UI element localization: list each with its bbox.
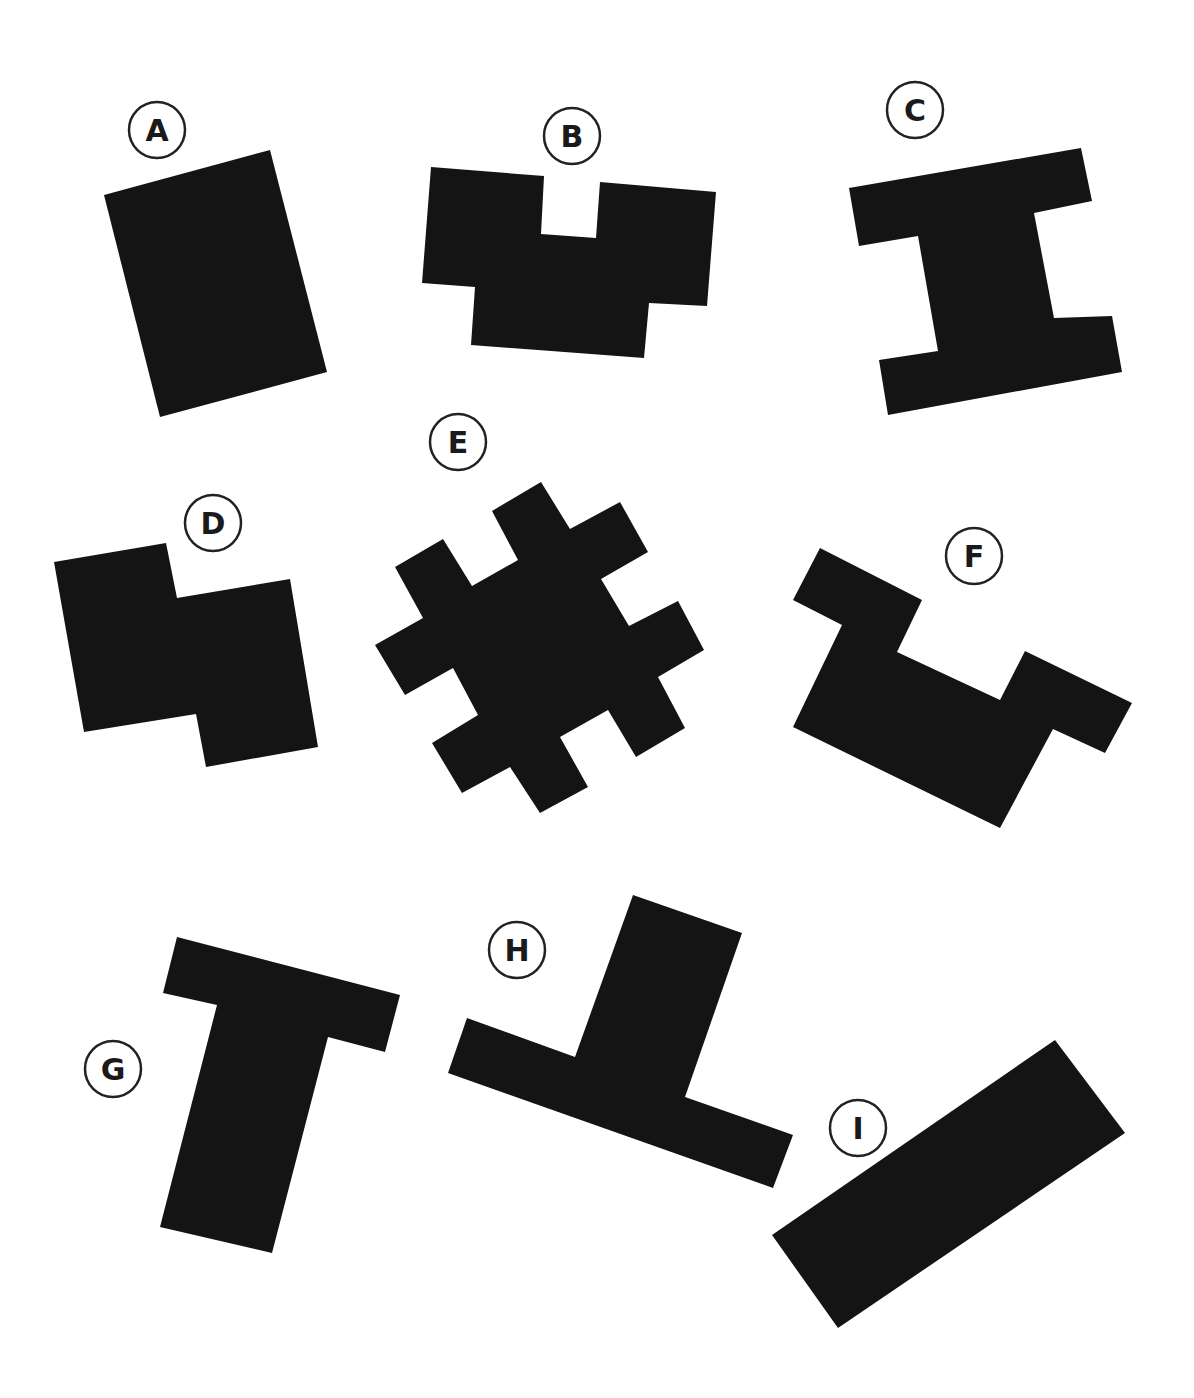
label-f: F xyxy=(946,528,1002,584)
shape-b-polygon xyxy=(422,167,716,358)
label-c: C xyxy=(887,82,943,138)
shape-b: B xyxy=(422,108,716,358)
shape-g: G xyxy=(85,937,400,1253)
label-letter: A xyxy=(145,113,169,148)
label-letter: D xyxy=(201,506,226,541)
label-letter: C xyxy=(904,93,926,128)
label-letter: F xyxy=(964,539,985,574)
label-letter: E xyxy=(448,425,469,460)
shape-c-polygon xyxy=(849,148,1122,415)
label-letter: H xyxy=(504,933,529,968)
label-b: B xyxy=(544,108,600,164)
shape-i: I xyxy=(772,1040,1125,1328)
label-letter: I xyxy=(852,1111,863,1146)
shape-g-polygon xyxy=(160,937,400,1253)
label-a: A xyxy=(129,102,185,158)
label-e: E xyxy=(430,414,486,470)
label-d: D xyxy=(185,495,241,551)
shape-a: A xyxy=(104,102,327,417)
label-letter: G xyxy=(101,1052,126,1087)
shape-e-polygon xyxy=(375,482,704,813)
label-g: G xyxy=(85,1041,141,1097)
label-h: H xyxy=(489,922,545,978)
shape-a-polygon xyxy=(104,150,327,417)
shape-i-polygon xyxy=(772,1040,1125,1328)
shapes-figure: ABCDEFGHI xyxy=(0,0,1194,1398)
shape-d-polygon xyxy=(54,543,318,767)
label-i: I xyxy=(830,1100,886,1156)
shape-c: C xyxy=(849,82,1122,415)
shape-f: F xyxy=(793,528,1132,828)
shape-e: E xyxy=(375,414,704,813)
shape-f-polygon xyxy=(793,548,1132,828)
shape-d: D xyxy=(54,495,318,767)
label-letter: B xyxy=(561,119,584,154)
shape-h: H xyxy=(448,895,793,1188)
